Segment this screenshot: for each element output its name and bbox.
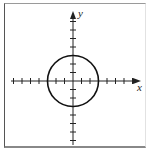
y-axis-label: y	[77, 7, 83, 19]
y-axis-arrow-icon	[70, 11, 76, 19]
coordinate-plane: x y	[0, 0, 149, 156]
x-axis-label: x	[136, 81, 142, 93]
